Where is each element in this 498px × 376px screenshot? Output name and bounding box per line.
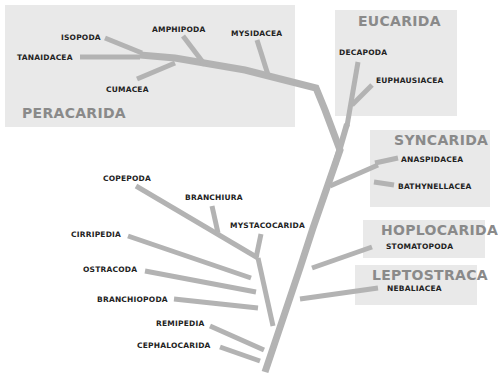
- taxon-cephalocarida: CEPHALOCARIDA: [137, 341, 211, 350]
- branch-bathynellacea: [374, 182, 394, 185]
- taxon-mystacocarida: MYSTACOCARIDA: [230, 221, 305, 230]
- taxon-tanaidacea: TANAIDACEA: [17, 53, 73, 62]
- taxon-cirripedia: CIRRIPEDIA: [71, 230, 121, 239]
- taxon-amphipoda: AMPHIPODA: [152, 25, 206, 34]
- taxon-euphausiacea: EUPHAUSIACEA: [376, 76, 443, 85]
- taxon-branchiopoda: BRANCHIOPODA: [97, 295, 168, 304]
- clade-title-syncarida: SYNCARIDA: [394, 132, 488, 148]
- branch-decapoda: [347, 62, 358, 126]
- clade-title-eucarida: EUCARIDA: [358, 13, 441, 29]
- branch-lower-clade-stem: [258, 258, 273, 326]
- taxon-mysidacea: MYSIDACEA: [231, 29, 282, 38]
- taxon-remipedia: REMIPEDIA: [156, 319, 204, 328]
- clade-title-hoplocarida: HOPLOCARIDA: [381, 222, 498, 238]
- branch-nebaliacea: [300, 288, 378, 299]
- taxon-stomatopoda: STOMATOPODA: [386, 242, 453, 251]
- taxon-isopoda: ISOPODA: [61, 33, 101, 42]
- taxon-anaspidacea: ANASPIDACEA: [401, 155, 463, 164]
- taxon-decapoda: DECAPODA: [339, 48, 387, 57]
- clade-title-leptostraca: LEPTOSTRACA: [372, 267, 488, 283]
- taxon-nebaliacea: NEBALIACEA: [387, 284, 442, 293]
- branch-anaspidacea: [375, 158, 398, 163]
- branch-remipedia: [210, 326, 264, 350]
- clade-title-peracarida: PERACARIDA: [22, 105, 126, 121]
- taxon-ostracoda: OSTRACODA: [83, 265, 137, 274]
- taxon-branchiura: BRANCHIURA: [185, 193, 243, 202]
- branch-branchiopoda: [174, 299, 258, 308]
- taxon-cumacea: CUMACEA: [106, 85, 149, 94]
- taxon-copepoda: COPEPODA: [103, 174, 151, 183]
- branch-mystacocarida: [256, 234, 261, 258]
- taxon-bathynellacea: BATHYNELLACEA: [398, 182, 472, 191]
- branch-cephalocarida: [220, 347, 260, 361]
- branch-cumacea: [137, 63, 175, 79]
- branch-stomatopoda: [312, 247, 372, 268]
- branch-isopoda: [105, 38, 142, 53]
